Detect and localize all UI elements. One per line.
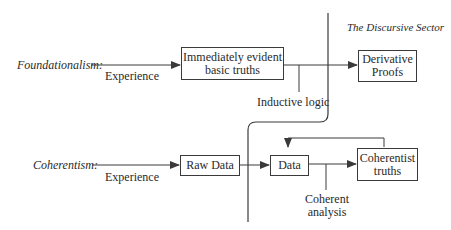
basic-truths-box: Immediately evident basic truths (181, 47, 284, 80)
sector-title: The Discursive Sector (347, 21, 444, 34)
derivative-proofs-box: Derivative Proofs (358, 50, 417, 82)
feedback-loop-arrow (288, 138, 384, 147)
coherentism-experience-label: Experience (105, 171, 159, 184)
coherentism-label: Coherentism: (33, 159, 98, 172)
coherentist-truths-line2: truths (374, 165, 401, 178)
sector-divider-line (248, 13, 328, 222)
data-box: Data (270, 155, 309, 176)
raw-data-label: Raw Data (186, 159, 234, 172)
inductive-logic-label: Inductive logic (257, 96, 329, 109)
diagram-canvas (0, 0, 451, 230)
basic-truths-line2: basic truths (205, 64, 260, 77)
coherent-analysis-label: Coherent analysis (305, 193, 349, 219)
raw-data-box: Raw Data (180, 155, 240, 176)
coherentist-truths-box: Coherentist truths (357, 148, 418, 181)
basic-truths-line1: Immediately evident (183, 51, 282, 64)
data-label: Data (278, 159, 301, 172)
coherent-analysis-line2: analysis (305, 206, 349, 219)
derivative-proofs-line2: Proofs (372, 66, 403, 79)
foundationalism-experience-label: Experience (105, 70, 159, 83)
coherentist-truths-line1: Coherentist (360, 152, 415, 165)
foundationalism-label: Foundationalism: (17, 59, 103, 72)
